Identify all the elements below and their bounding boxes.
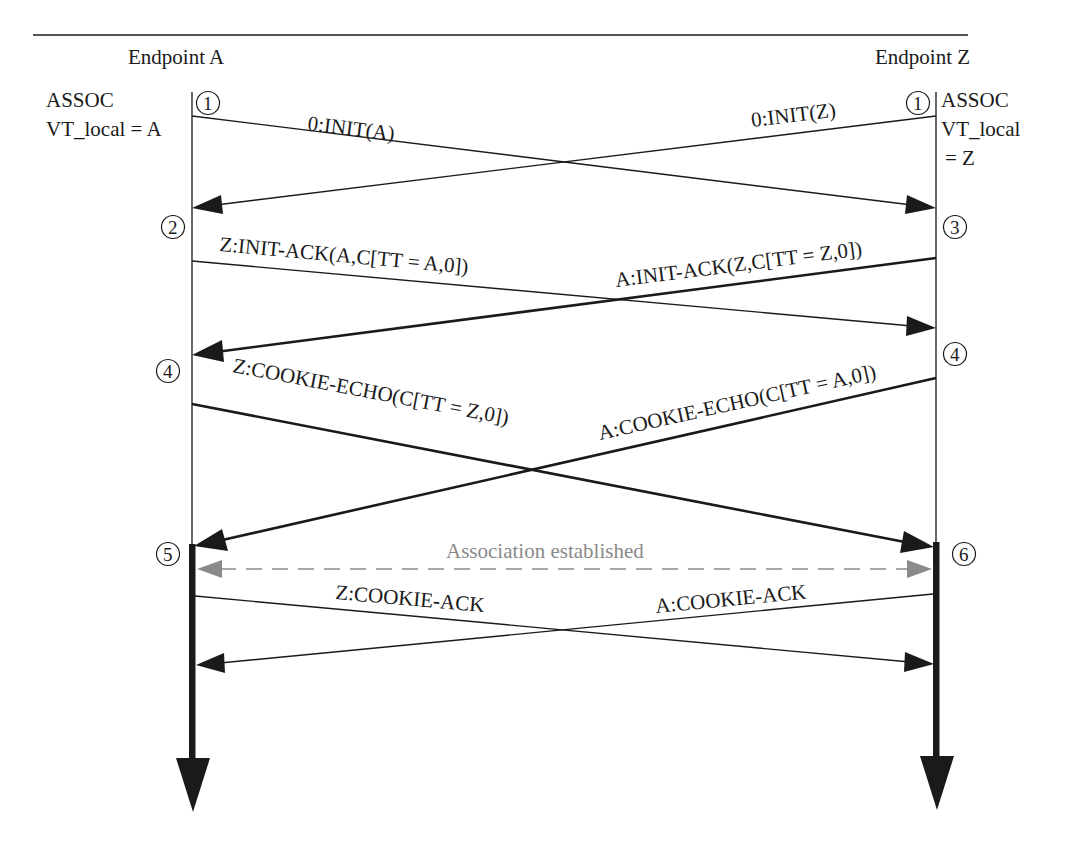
svg-text:3: 3	[950, 217, 960, 238]
svg-text:4: 4	[950, 344, 960, 365]
svg-text:A:COOKIE-ACK: A:COOKIE-ACK	[654, 580, 807, 618]
svg-text:1: 1	[203, 93, 213, 114]
endpoint-z-label: Endpoint Z	[875, 45, 970, 69]
lifeline-z-down-arrow-icon	[920, 756, 954, 810]
svg-text:4: 4	[163, 361, 173, 382]
lifeline-a-down-arrow-icon	[176, 758, 210, 812]
lifeline-a-established	[189, 544, 196, 760]
endpoint-a-label: Endpoint A	[128, 45, 225, 69]
message-cookie-ack-a: A:COOKIE-ACK	[196, 580, 933, 673]
sctp-association-diagram: Endpoint A Endpoint Z ASSOC VT_local = A…	[0, 0, 1074, 858]
endpoint-a-state-line2: VT_local = A	[46, 117, 162, 141]
lifeline-z-established	[933, 542, 940, 760]
svg-text:0:INIT(Z): 0:INIT(Z)	[750, 98, 837, 132]
svg-text:2: 2	[168, 217, 178, 238]
endpoint-z-state-line2: VT_local	[941, 117, 1020, 141]
svg-text:Z:INIT-ACK(A,C[TT = A,0]): Z:INIT-ACK(A,C[TT = A,0])	[219, 232, 470, 279]
svg-text:0:INIT(A): 0:INIT(A)	[306, 111, 396, 145]
message-association-established: Association established	[197, 539, 932, 578]
svg-text:Z:COOKIE-ECHO(C[TT = Z,0]): Z:COOKIE-ECHO(C[TT = Z,0])	[231, 353, 511, 429]
endpoint-z-state-line3: = Z	[945, 146, 975, 170]
message-cookie-ack-z: Z:COOKIE-ACK	[195, 580, 934, 672]
svg-text:5: 5	[163, 544, 173, 565]
svg-text:Association established: Association established	[446, 539, 644, 563]
svg-text:6: 6	[959, 544, 969, 565]
svg-text:1: 1	[913, 93, 923, 114]
endpoint-z-state-line1: ASSOC	[941, 88, 1009, 112]
endpoint-a-state-line1: ASSOC	[46, 88, 114, 112]
svg-text:A:COOKIE-ECHO(C[TT = A,0]): A:COOKIE-ECHO(C[TT = A,0])	[596, 360, 878, 445]
message-init-z: 0:INIT(Z)	[192, 98, 936, 214]
